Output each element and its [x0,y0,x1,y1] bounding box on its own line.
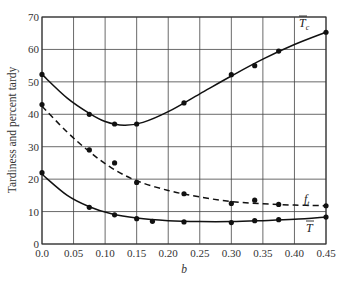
series-curve-2 [42,174,326,221]
x-tick-label: 0.20 [159,247,179,259]
data-point [87,147,92,152]
data-point [229,201,234,206]
data-point [112,212,117,217]
data-point [134,180,139,185]
y-axis-ticks: 010203040506070 [28,11,40,250]
data-point [229,72,234,77]
data-point [181,219,186,224]
y-tick-label: 60 [28,43,40,55]
data-point [150,219,155,224]
y-tick-label: 10 [28,206,40,218]
x-axis-label: b [181,263,187,275]
y-tick-label: 30 [28,141,40,153]
y-tick-label: 50 [28,76,40,88]
data-point [276,217,281,222]
data-point [112,160,117,165]
data-point [276,202,281,207]
data-point [252,218,257,223]
series-curve-0 [42,32,326,125]
series-label-1: ft [304,192,310,208]
data-point [87,112,92,117]
x-tick-label: 0.10 [95,247,115,259]
series-label-0: Tc [299,16,310,32]
data-point [112,121,117,126]
grid-lines [42,17,326,244]
series-labels: TcftT [299,16,314,235]
x-tick-label: 0.30 [222,247,242,259]
x-tick-label: 0.45 [316,247,336,259]
plot-frame [42,17,326,244]
data-point [39,102,44,107]
y-tick-label: 40 [28,108,40,120]
data-point [134,216,139,221]
x-tick-label: 0.25 [190,247,210,259]
data-point [252,198,257,203]
data-point [252,63,257,68]
data-point [39,72,44,77]
data-points [39,30,328,226]
data-point [323,203,328,208]
data-point [323,30,328,35]
data-point [181,191,186,196]
y-axis-label: Tardiness and percent tardy [6,66,19,193]
x-tick-label: 0.05 [64,247,84,259]
y-tick-label: 70 [28,11,40,23]
chart: 0.00.050.100.150.200.250.300.350.400.45 … [0,0,343,283]
data-point [229,220,234,225]
series-label-2: T [306,221,314,235]
data-point [134,121,139,126]
x-tick-label: 0.15 [127,247,147,259]
data-point [276,48,281,53]
data-point [323,214,328,219]
data-point [87,205,92,210]
x-tick-label: 0.35 [253,247,273,259]
data-point [39,170,44,175]
x-tick-label: 0.40 [285,247,305,259]
y-tick-label: 0 [34,238,40,250]
series-curve-1 [42,106,326,206]
x-axis-ticks: 0.00.050.100.150.200.250.300.350.400.45 [35,247,336,259]
y-tick-label: 20 [28,173,40,185]
data-point [181,100,186,105]
